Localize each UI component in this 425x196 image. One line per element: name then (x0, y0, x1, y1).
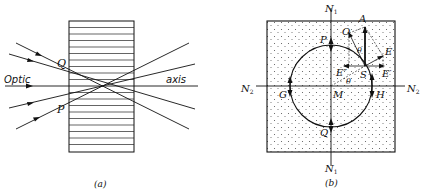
label-point-q: Q (320, 127, 328, 138)
label-optic: Optic (4, 74, 31, 85)
label-theta-bottom: θ (346, 77, 351, 86)
label-point-a: A (358, 13, 366, 24)
label-n1-bottom: N1 (324, 163, 338, 175)
label-point-g: G (279, 89, 287, 100)
label-point-o: O (342, 26, 350, 37)
label-point-h: H (375, 89, 385, 100)
label-n2-right: N2 (406, 83, 420, 95)
label-point-p: P (319, 34, 327, 45)
label-theta-top: θ (357, 46, 362, 55)
figure-b: N1 N1 N2 N2 A O E E′ E″ S θ θ P Q G H M … (240, 3, 420, 188)
ray-arrowheads (26, 52, 42, 122)
label-n2-left: N2 (240, 83, 254, 95)
label-point-s: S (360, 69, 367, 80)
label-n1-top: N1 (324, 3, 338, 15)
figure-canvas: Optic axis Q P (a) (0, 0, 425, 196)
figure-a: Optic axis Q P (a) (4, 21, 198, 189)
caption-a: (a) (94, 179, 107, 189)
caption-b: (b) (325, 178, 338, 188)
arrowhead-icon (27, 102, 34, 106)
arrowhead-icon (27, 58, 34, 62)
arrowhead-icon (33, 117, 40, 122)
label-point-m: M (332, 89, 344, 100)
label-axis: axis (166, 74, 186, 85)
label-point-e: E (384, 46, 393, 57)
label-point-q: Q (57, 57, 66, 70)
label-point-e-prime: E′ (381, 68, 392, 79)
label-point-p: P (56, 103, 65, 116)
arrowhead-icon (35, 52, 42, 57)
